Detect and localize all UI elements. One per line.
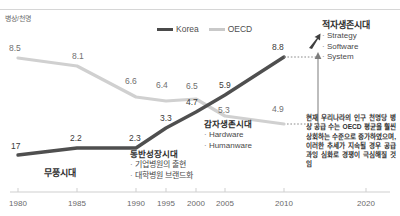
annotation-gamja-item-1: Humanware	[204, 141, 252, 152]
annotation-gamja-title: 감자생존시대	[204, 119, 252, 130]
value-label-oecd-2010: 4.9	[272, 104, 284, 114]
annotation-dongban-title: 동반성장시대	[130, 149, 193, 160]
value-label-korea-2005: 5.9	[219, 80, 231, 90]
annotation-jeokja: 적자생존시대 Strategy Software System	[322, 20, 370, 63]
annotation-jeokja-title: 적자생존시대	[322, 20, 370, 31]
explanatory-note: 현재 우리나라의 인구 천명당 병상 공급 수는 OECD 평균을 훨씬 상회하…	[306, 113, 396, 169]
x-tick-1990: 1990	[127, 199, 145, 208]
callout-arrow-icon	[309, 34, 321, 50]
gap-indicator-arrow-icon	[315, 52, 322, 59]
value-label-korea-2010: 8.8	[272, 42, 284, 52]
annotation-dongban-item-1: 대학병원 브랜드화	[130, 171, 193, 182]
x-tick-2020: 2020	[357, 199, 375, 208]
value-label-oecd-1995: 6.4	[156, 80, 168, 90]
annotation-mupung: 무풍시대	[44, 168, 76, 179]
value-label-oecd-2005: 5.3	[218, 105, 230, 115]
x-tick-2000: 2000	[187, 199, 205, 208]
value-label-oecd-1990: 6.6	[125, 76, 137, 86]
annotation-dongban: 동반성장시대 기업병원의 출현 대학병원 브랜드화	[130, 149, 193, 181]
x-axis-ticks	[18, 188, 366, 192]
chart-container: 병상/천명 Korea OECD	[0, 0, 400, 216]
annotation-jeokja-item-2: System	[322, 52, 370, 63]
annotation-gamja-item-0: Hardware	[204, 130, 252, 141]
value-label-korea-1995: 3.3	[160, 113, 172, 123]
x-tick-2010: 2010	[275, 199, 293, 208]
value-label-oecd-1980: 8.5	[9, 43, 21, 53]
value-label-korea-2000: 4.7	[186, 97, 198, 107]
annotation-jeokja-item-1: Software	[322, 42, 370, 53]
x-tick-1985: 1985	[68, 199, 86, 208]
value-label-oecd-1985: 8.1	[72, 51, 84, 61]
annotation-gamja: 감자생존시대 Hardware Humanware	[204, 119, 252, 151]
annotation-jeokja-item-0: Strategy	[322, 31, 370, 42]
x-tick-2005: 2005	[216, 199, 234, 208]
annotation-dongban-item-0: 기업병원의 출현	[130, 160, 193, 171]
annotation-mupung-title: 무풍시대	[44, 168, 76, 179]
value-label-korea-1990: 2.3	[129, 133, 141, 143]
value-label-korea-1985: 2.2	[70, 133, 82, 143]
x-tick-1980: 1980	[9, 199, 27, 208]
x-tick-1995: 1995	[157, 199, 175, 208]
series-line-oecd	[18, 58, 284, 124]
value-label-korea-1980: 17	[11, 141, 20, 151]
value-label-oecd-2000: 6.5	[186, 81, 198, 91]
